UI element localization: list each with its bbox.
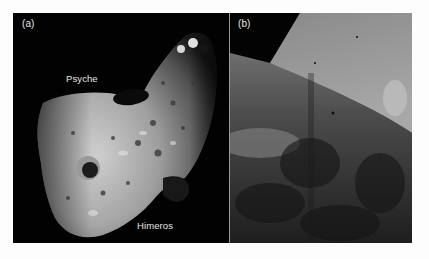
panel-a-asteroid-eros: (a) Psyche Himeros [13,13,229,243]
figure: (a) Psyche Himeros [13,13,412,243]
panel-b-surface-closeup: (b) [230,13,412,243]
surface-closeup-image [230,13,412,243]
annotation-himeros: Himeros [137,220,173,231]
panel-a-label: (a) [22,18,35,29]
annotation-psyche: Psyche [66,73,98,84]
asteroid-eros-image [13,13,229,243]
panel-b-label: (b) [238,18,251,29]
